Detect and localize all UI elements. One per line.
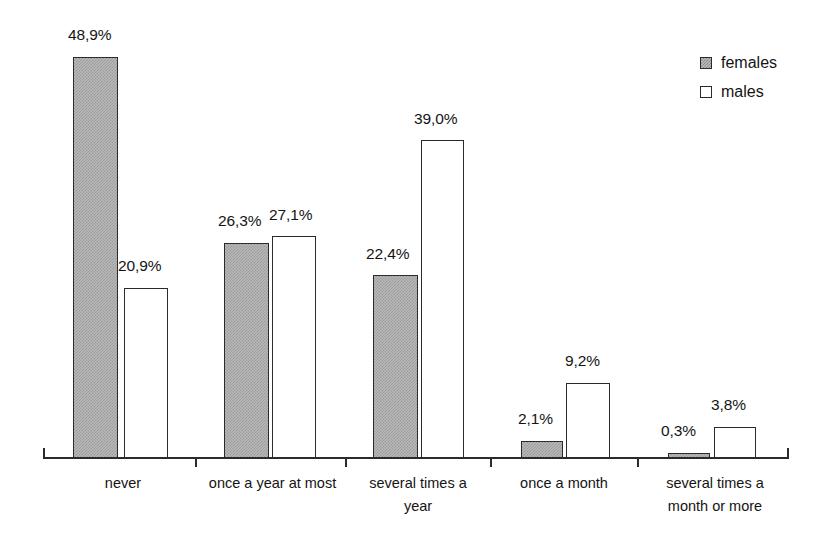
- x-axis-line: [43, 457, 789, 459]
- bar-females-once-a-month: [521, 441, 563, 458]
- x-axis-label-several-times-a-year-line-2: year: [348, 495, 488, 518]
- data-label-females-several-times-a-month-or-more: 0,3%: [661, 422, 696, 440]
- bar-chart: 48,9% 20,9% 26,3% 27,1% 22,4% 39,0% 2,1%…: [0, 0, 826, 539]
- legend-swatch-females-icon: [700, 57, 712, 69]
- x-axis-tick-3: [490, 458, 492, 467]
- x-axis-label-once-a-month-line-1: once a month: [494, 472, 634, 495]
- legend-swatch-males-icon: [700, 86, 712, 98]
- data-label-males-several-times-a-month-or-more: 3,8%: [711, 396, 746, 414]
- data-label-males-several-times-a-year: 39,0%: [414, 110, 457, 128]
- x-axis-label-never-line-1: never: [58, 472, 188, 495]
- data-label-males-once-a-month: 9,2%: [565, 352, 600, 370]
- x-axis-label-several-times-a-month-or-more-line-1: several times a: [640, 472, 790, 495]
- bar-females-several-times-a-year: [373, 275, 418, 458]
- legend-item-females: females: [700, 48, 777, 77]
- x-axis-label-several-times-a-month-or-more-line-2: month or more: [640, 495, 790, 518]
- legend-label-females: females: [721, 54, 777, 72]
- x-axis-left-endcap: [43, 448, 45, 459]
- legend: females males: [700, 48, 777, 106]
- x-axis-tick-1: [195, 458, 197, 467]
- data-label-males-once-a-year-at-most: 27,1%: [269, 206, 312, 224]
- x-axis-label-several-times-a-year-line-1: several times a: [348, 472, 488, 495]
- data-label-females-several-times-a-year: 22,4%: [366, 245, 409, 263]
- legend-item-males: males: [700, 77, 777, 106]
- bar-females-once-a-year-at-most: [224, 243, 269, 458]
- bar-males-once-a-month: [566, 383, 610, 458]
- bar-males-never: [124, 288, 168, 458]
- x-axis-label-once-a-month: once a month: [494, 472, 634, 495]
- bar-males-several-times-a-year: [421, 140, 464, 458]
- x-axis-tick-4: [637, 458, 639, 467]
- x-axis-label-once-a-year-at-most: once a year at most: [195, 472, 350, 495]
- legend-label-males: males: [721, 83, 764, 101]
- x-axis-label-once-a-year-at-most-line-1: once a year at most: [195, 472, 350, 495]
- data-label-females-once-a-month: 2,1%: [518, 410, 553, 428]
- bar-females-never: [73, 57, 118, 458]
- x-axis-tick-2: [345, 458, 347, 467]
- data-label-females-once-a-year-at-most: 26,3%: [218, 212, 261, 230]
- bar-males-several-times-a-month-or-more: [714, 427, 756, 458]
- x-axis-label-never: never: [58, 472, 188, 495]
- data-label-females-never: 48,9%: [68, 26, 111, 44]
- data-label-males-never: 20,9%: [118, 257, 161, 275]
- bar-males-once-a-year-at-most: [272, 236, 316, 458]
- x-axis-label-several-times-a-year: several times a year: [348, 472, 488, 518]
- x-axis-label-several-times-a-month-or-more: several times a month or more: [640, 472, 790, 518]
- x-axis-right-endcap: [787, 448, 789, 459]
